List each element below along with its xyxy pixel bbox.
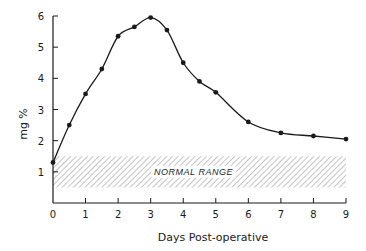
data-point xyxy=(344,137,349,142)
data-point xyxy=(181,60,186,65)
data-point xyxy=(246,120,251,125)
x-tick-label: 3 xyxy=(147,209,153,220)
normal-range-label: NORMAL RANGE xyxy=(154,167,233,177)
y-tick-label: 2 xyxy=(38,136,44,147)
data-point xyxy=(83,92,88,97)
y-tick-label: 6 xyxy=(38,11,44,22)
data-point xyxy=(116,34,121,39)
x-tick-label: 8 xyxy=(310,209,316,220)
y-tick-label: 1 xyxy=(38,167,44,178)
data-point xyxy=(197,79,202,84)
x-tick-label: 1 xyxy=(82,209,88,220)
series-line xyxy=(53,18,346,163)
x-tick-label: 2 xyxy=(115,209,121,220)
data-point xyxy=(67,123,72,128)
y-tick-label: 3 xyxy=(38,105,44,116)
x-tick-label: 5 xyxy=(213,209,219,220)
x-axis-title: Days Post-operative xyxy=(158,231,269,244)
y-tick-label: 4 xyxy=(38,73,44,84)
x-tick-label: 4 xyxy=(180,209,186,220)
data-point xyxy=(148,15,153,20)
x-tick-label: 6 xyxy=(245,209,251,220)
data-point xyxy=(99,67,104,72)
x-tick-label: 7 xyxy=(278,209,284,220)
x-tick-label: 0 xyxy=(50,209,56,220)
data-point xyxy=(278,130,283,135)
data-point xyxy=(213,90,218,95)
data-point xyxy=(311,134,316,139)
data-point xyxy=(165,28,170,33)
x-tick-label: 9 xyxy=(343,209,349,220)
data-series xyxy=(51,15,349,165)
line-chart: 1234560123456789 NORMAL RANGE Days Post-… xyxy=(0,0,366,251)
data-point xyxy=(51,160,56,165)
y-axis-title: mg % xyxy=(17,108,30,140)
axes: 1234560123456789 xyxy=(38,11,350,220)
data-point xyxy=(132,25,137,30)
y-tick-label: 5 xyxy=(38,42,44,53)
